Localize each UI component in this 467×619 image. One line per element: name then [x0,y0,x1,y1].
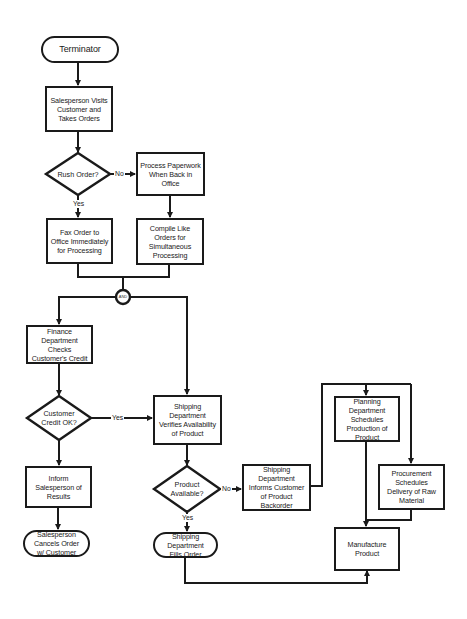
edge-label-rush-no: No [114,170,125,178]
terminator-start: Terminator [41,36,119,63]
process-shipping-backorder-label: Shipping Department Informs Customer of … [246,465,307,510]
process-compile-orders: Compile Like Orders for Simultaneous Pro… [136,218,204,265]
process-compile-orders-label: Compile Like Orders for Simultaneous Pro… [140,224,200,260]
process-procurement-schedules: Procurement Schedules Delivery of Raw Ma… [378,464,445,510]
edge-label-rush-yes: Yes [72,200,85,208]
process-salesperson-visits: Salesperson Visits Customer and Takes Or… [45,86,113,132]
process-shipping-verifies-label: Shipping Department Verifies Availabilit… [157,402,218,438]
process-fax-order-label: Fax Order to Office Immediately for Proc… [50,228,109,255]
process-salesperson-visits-label: Salesperson Visits Customer and Takes Or… [49,96,109,123]
process-manufacture-product-label: Manufacture Product [338,540,396,558]
process-fax-order: Fax Order to Office Immediately for Proc… [46,218,113,264]
process-planning-schedules: Planning Department Schedules Production… [334,396,400,442]
process-shipping-backorder: Shipping Department Informs Customer of … [242,464,311,511]
process-planning-schedules-label: Planning Department Schedules Production… [338,397,396,442]
process-paperwork-office: Process Paperwork When Back in Office [136,152,205,196]
edge-procurement-manufacture [366,509,411,520]
edge-label-available-yes: Yes [181,514,194,522]
process-finance-credit: Finance Department Checks Customer's Cre… [26,325,93,364]
terminator-fills-order: Shipping Department Fills Order [153,532,218,558]
terminator-cancels-order: Salesperson Cancels Order w/ Customer [23,530,90,557]
decision-credit-ok-label: Customer Credit OK? [34,409,84,427]
edge-merge [78,263,169,277]
process-procurement-schedules-label: Procurement Schedules Delivery of Raw Ma… [382,469,441,505]
edge-label-available-no: No [221,485,232,493]
process-shipping-verifies: Shipping Department Verifies Availabilit… [153,395,222,445]
edge-label-credit-yes: Yes [111,414,124,422]
edge-connector-verify [130,297,187,394]
terminator-fills-order-label: Shipping Department Fills Order [161,532,210,559]
terminator-cancels-order-label: Salesperson Cancels Order w/ Customer [31,530,82,557]
process-manufacture-product: Manufacture Product [334,527,400,571]
process-inform-salesperson-label: Inform Salesperson of Results [29,474,88,501]
and-connector-label: AND [117,294,129,299]
terminator-start-label: Terminator [59,45,101,54]
process-finance-credit-label: Finance Department Checks Customer's Cre… [30,327,89,363]
process-paperwork-office-label: Process Paperwork When Back in Office [140,161,201,188]
edge-connector-finance [59,297,116,324]
decision-product-available-label: Product Available? [163,480,211,498]
decision-rush-order-label: Rush Order? [52,165,104,183]
process-inform-salesperson: Inform Salesperson of Results [25,466,92,508]
